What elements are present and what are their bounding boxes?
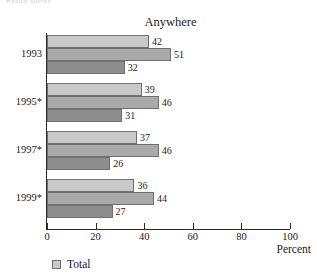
y-axis-category-label: 1993 — [21, 48, 42, 59]
x-axis-line — [46, 229, 290, 230]
x-axis-tick-label: 100 — [282, 231, 298, 242]
bar — [47, 96, 159, 109]
bar — [47, 157, 110, 170]
bar-value-label: 31 — [125, 109, 135, 122]
bar-value-label: 32 — [128, 61, 138, 74]
x-axis-title: Percent — [277, 243, 311, 255]
bar-value-label: 39 — [145, 83, 155, 96]
bar — [47, 131, 137, 144]
x-axis-tick-label: 60 — [188, 231, 199, 242]
x-axis-tick-label: 40 — [139, 231, 150, 242]
y-axis-category-label: 1997* — [16, 144, 42, 155]
bar — [47, 192, 154, 205]
bar — [47, 83, 142, 96]
bar — [47, 205, 113, 218]
bar — [47, 179, 134, 192]
y-axis-category-label: 1999* — [16, 192, 42, 203]
x-axis-tick-mark — [241, 223, 242, 229]
bar-value-label: 27 — [116, 205, 126, 218]
x-axis-tick-mark — [47, 223, 48, 229]
plot-area: 425132394631374626364427 — [47, 33, 290, 229]
bar-value-label: 46 — [162, 96, 172, 109]
bar — [47, 61, 125, 74]
x-axis-tick-mark — [290, 223, 291, 229]
x-axis-tick-label: 80 — [236, 231, 247, 242]
bar-value-label: 26 — [113, 157, 123, 170]
bar-value-label: 51 — [174, 48, 184, 61]
bar-value-label: 36 — [137, 179, 147, 192]
chart-title: Anywhere — [0, 15, 317, 30]
bar — [47, 109, 122, 122]
legend-label: Total — [67, 258, 90, 270]
bar-value-label: 37 — [140, 131, 150, 144]
y-axis-category-labels: 19931995*1997*1999* — [0, 0, 45, 276]
chart-legend: Total — [52, 258, 90, 270]
x-axis-tick-mark — [193, 223, 194, 229]
x-axis-tick-label: 20 — [90, 231, 101, 242]
x-axis-tick-mark — [144, 223, 145, 229]
x-axis-tick-mark — [96, 223, 97, 229]
bar — [47, 48, 171, 61]
y-axis-category-label: 1995* — [16, 96, 42, 107]
bar-value-label: 42 — [152, 35, 162, 48]
bar — [47, 144, 159, 157]
legend-swatch — [52, 260, 61, 269]
x-axis-tick-label: 0 — [44, 231, 49, 242]
bar-value-label: 44 — [157, 192, 167, 205]
bar — [47, 35, 149, 48]
bar-value-label: 46 — [162, 144, 172, 157]
